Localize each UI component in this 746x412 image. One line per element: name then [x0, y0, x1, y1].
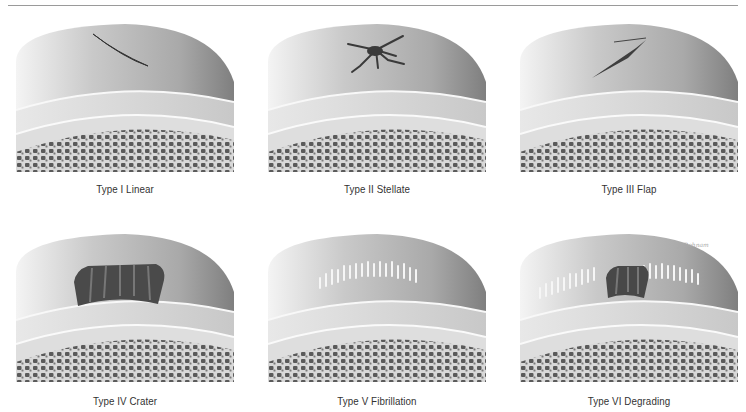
panel-type-ii-stellate — [268, 22, 486, 172]
panel-type-iv-crater — [16, 232, 234, 382]
degrading-tear-illustration — [520, 232, 738, 382]
panel-type-i-linear — [16, 22, 234, 172]
caption-type-vi: Type VI Degrading — [536, 395, 721, 407]
panel-type-iii-flap — [520, 22, 738, 172]
panel-type-v-fibrillation — [268, 232, 486, 382]
artist-signature: J. Bohnam — [678, 241, 709, 248]
caption-type-i: Type I Linear — [32, 183, 217, 195]
caption-type-ii: Type II Stellate — [284, 183, 469, 195]
stellate-tear-illustration — [268, 22, 486, 172]
flap-tear-illustration — [520, 22, 738, 172]
crater-tear-illustration — [16, 232, 234, 382]
caption-type-iii: Type III Flap — [536, 183, 721, 195]
caption-type-v: Type V Fibrillation — [284, 395, 469, 407]
linear-tear-illustration — [16, 22, 234, 172]
caption-type-iv: Type IV Crater — [32, 395, 217, 407]
panel-type-vi-degrading — [520, 232, 738, 382]
fibrillation-illustration — [268, 232, 486, 382]
top-rule — [8, 5, 738, 6]
